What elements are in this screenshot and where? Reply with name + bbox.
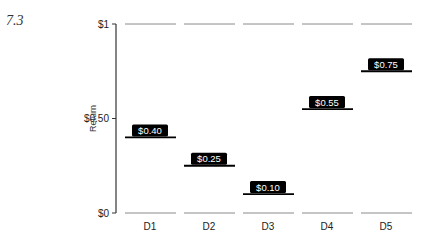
value-label-text: $0.25 <box>197 153 221 164</box>
value-label-text: $0.40 <box>138 125 162 136</box>
value-label-text: $0.75 <box>374 59 398 70</box>
value-label: $0.75 <box>368 58 404 70</box>
x-tick-label: D2 <box>203 221 216 231</box>
y-axis-title: Return <box>88 105 98 132</box>
value-label-text: $0.55 <box>315 97 339 108</box>
value-label-text: $0.10 <box>256 182 280 193</box>
y-tick-label: $1 <box>98 19 110 30</box>
value-label: $0.55 <box>309 96 345 108</box>
x-tick-label: D3 <box>262 221 275 231</box>
value-label: $0.25 <box>191 153 227 165</box>
x-tick-label: D5 <box>380 221 393 231</box>
x-tick-label: D1 <box>144 221 157 231</box>
y-tick-label: $0 <box>98 208 110 219</box>
x-tick-label: D4 <box>321 221 334 231</box>
value-label: $0.40 <box>132 124 168 136</box>
value-label: $0.10 <box>250 181 286 193</box>
level-chart: $0$0.50$1Return$0.40D1$0.25D2$0.10D3$0.5… <box>0 0 434 231</box>
